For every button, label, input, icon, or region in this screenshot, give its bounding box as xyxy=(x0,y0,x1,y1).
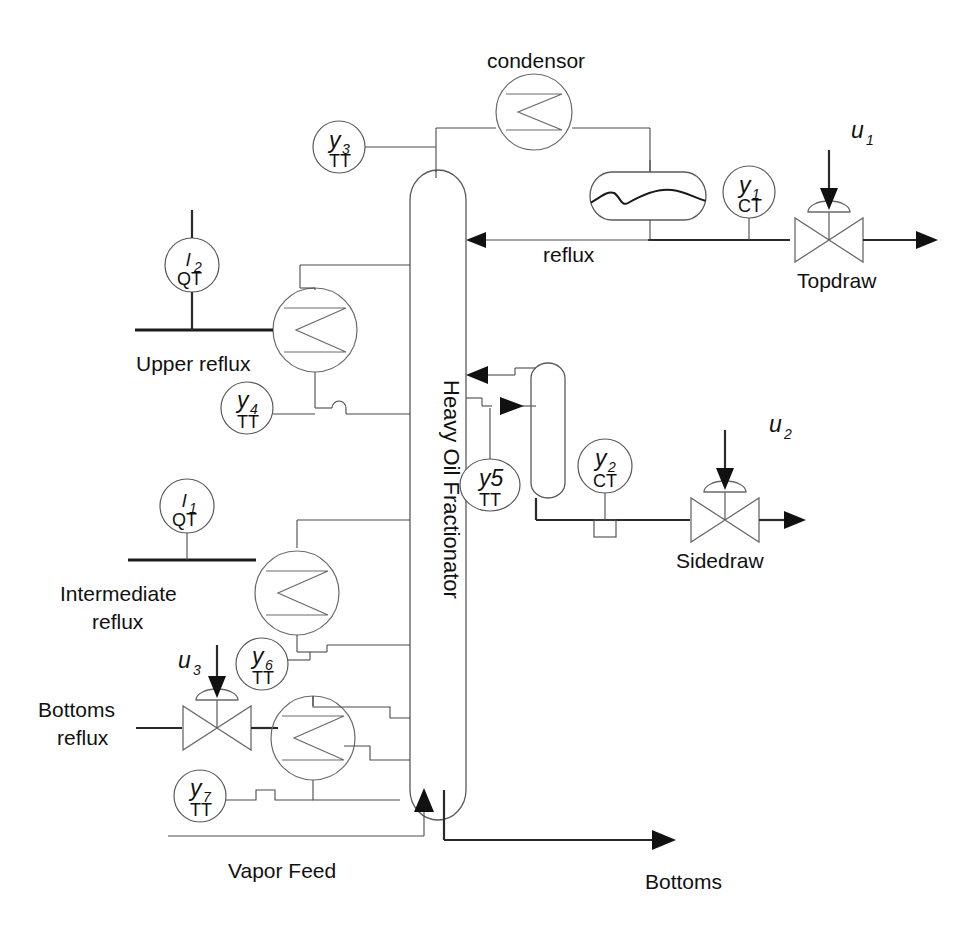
y7-tt-leader xyxy=(226,790,313,800)
topdraw-valve[interactable] xyxy=(795,150,863,262)
y2-type: CT xyxy=(593,471,617,491)
instrument-y1-ct[interactable]: y 1 CT xyxy=(723,166,775,218)
y7-type: TT xyxy=(190,800,212,820)
process-flow-diagram: Heavy Oil Fractionator condensor y 3 TT xyxy=(0,0,976,940)
y1-type: CT xyxy=(738,196,762,216)
u2-variable: u xyxy=(769,411,782,437)
upper-reflux-exchanger xyxy=(273,288,357,372)
sidedraw-drum xyxy=(531,363,565,498)
reflux-drum-level xyxy=(586,190,716,205)
instrument-y4-tt[interactable]: y 4 TT xyxy=(221,382,273,434)
condensor: condensor xyxy=(487,49,585,150)
reflux-label: reflux xyxy=(543,243,595,266)
instrument-y7-tt[interactable]: y 7 TT xyxy=(174,770,226,822)
y6-variable: y xyxy=(250,643,265,669)
y3-variable: y xyxy=(327,127,342,153)
y7-variable: y xyxy=(188,775,203,801)
bottoms-arrow xyxy=(652,830,676,850)
y4-type: TT xyxy=(237,412,259,432)
bottoms-hx-return-top xyxy=(313,696,410,718)
u3-subscript: 3 xyxy=(193,662,201,678)
instrument-l2-qt[interactable]: l 2 QT xyxy=(165,238,219,292)
u1-subscript: 1 xyxy=(866,132,874,148)
instrument-l1-qt[interactable]: l 1 QT xyxy=(160,479,214,533)
y6-type: TT xyxy=(252,668,274,688)
vapor-feed-label: Vapor Feed xyxy=(228,859,336,882)
u1-annotation: u 1 xyxy=(851,117,874,148)
intermediate-reflux-label-2: reflux xyxy=(92,610,144,633)
upper-hx-return-hop xyxy=(332,401,346,408)
u3-variable: u xyxy=(178,647,191,673)
sidedraw-label: Sidedraw xyxy=(676,549,764,572)
intermediate-reflux-exchanger xyxy=(255,551,339,635)
sidedraw-return-arrow xyxy=(466,366,488,384)
sidedraw-valve[interactable] xyxy=(691,430,759,542)
y4-variable: y xyxy=(235,387,250,413)
l1-type: QT xyxy=(172,510,197,530)
y2-variable: y xyxy=(593,445,608,471)
sidedraw-draw-arrow xyxy=(500,397,524,415)
vapor-feed-arrow xyxy=(414,788,434,812)
instrument-y5-tt[interactable]: y5 TT xyxy=(460,459,520,511)
bottoms-reflux-label-1: Bottoms xyxy=(38,698,115,721)
sidedraw-sample-box xyxy=(594,520,616,537)
upper-reflux-label: Upper reflux xyxy=(136,352,251,375)
y5-type: TT xyxy=(479,490,501,510)
u1-variable: u xyxy=(851,117,864,143)
sidedraw-outlet-arrow xyxy=(784,511,806,529)
y3-type: TT xyxy=(329,151,351,171)
bottoms-reflux-exchanger xyxy=(271,696,355,780)
bottoms-hx-drain xyxy=(313,780,400,800)
l2-type: QT xyxy=(177,269,202,289)
topdraw-outlet-arrow xyxy=(916,231,938,249)
reflux-inlet-arrow xyxy=(466,232,486,248)
instrument-y3-tt[interactable]: y 3 TT xyxy=(313,121,365,173)
y5-variable: y5 xyxy=(477,465,504,491)
fractionator-column: Heavy Oil Fractionator xyxy=(410,170,466,820)
instrument-y6-tt[interactable]: y 6 TT xyxy=(236,638,288,690)
intermediate-reflux-label-1: Intermediate xyxy=(60,582,177,605)
instrument-y2-ct[interactable]: y 2 CT xyxy=(578,439,632,493)
bottoms-reflux-label-2: reflux xyxy=(57,726,109,749)
u2-subscript: 2 xyxy=(783,426,792,442)
u2-annotation: u 2 xyxy=(769,411,792,442)
pid-canvas: Heavy Oil Fractionator condensor y 3 TT xyxy=(0,0,976,940)
y1-variable: y xyxy=(737,172,752,198)
bottoms-label: Bottoms xyxy=(645,870,722,893)
condensor-label: condensor xyxy=(487,49,585,72)
u3-annotation: u 3 xyxy=(178,647,201,678)
topdraw-label: Topdraw xyxy=(797,269,877,292)
reflux-drum xyxy=(586,172,716,220)
